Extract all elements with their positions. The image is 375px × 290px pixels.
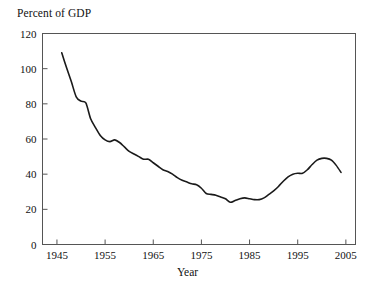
x-tick-label: 1965 [142,249,165,261]
line-chart-plot: 020406080100120 194519551965197519851995… [0,0,375,290]
x-tick-label: 1945 [46,249,69,261]
plot-frame [43,34,356,245]
y-tick-label: 120 [20,28,37,40]
x-tick-label: 2005 [335,249,358,261]
y-tick-label: 20 [26,203,38,215]
y-tick-label: 60 [26,133,38,145]
data-series-line [62,53,341,202]
y-tick-mark-group [43,34,48,210]
x-tick-label: 1975 [190,249,213,261]
x-tick-label: 1985 [239,249,262,261]
y-tick-label-group: 020406080100120 [20,28,37,251]
y-tick-label: 40 [26,168,38,180]
x-tick-label: 1995 [287,249,310,261]
y-tick-label: 100 [20,63,37,75]
x-tick-label: 1955 [94,249,117,261]
y-tick-label: 80 [26,98,38,110]
x-axis-label: Year [0,266,375,279]
chart-figure: Percent of GDP 020406080100120 194519551… [0,0,375,290]
y-tick-label: 0 [31,239,37,251]
x-tick-mark-group [57,240,346,245]
x-tick-label-group: 1945195519651975198519952005 [46,249,357,261]
